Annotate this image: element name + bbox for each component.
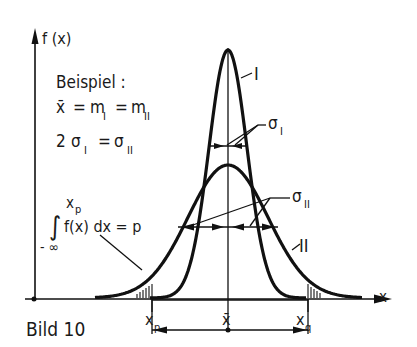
sigma-ii-label: σ II — [292, 186, 310, 211]
svg-text:II: II — [127, 144, 133, 157]
svg-text:x: x — [145, 310, 154, 329]
svg-text:σ: σ — [71, 131, 81, 151]
svg-text:f(x) dx = p: f(x) dx = p — [64, 217, 141, 236]
svg-text:2: 2 — [56, 131, 66, 151]
origin-dot — [32, 297, 37, 302]
curve-i-label: I — [254, 63, 259, 84]
xbar-label: x̄ — [222, 310, 231, 329]
integral-expression: x p ∫ - ∞ f(x) dx = p — [40, 194, 141, 255]
svg-text:x: x — [66, 194, 74, 212]
integral-sign: ∫ — [49, 211, 61, 241]
svg-text:x: x — [296, 310, 305, 329]
x-axis-label: x — [379, 288, 387, 306]
sigma-i-label: σ I — [268, 113, 283, 138]
svg-text:σ: σ — [114, 131, 124, 151]
example-heading: Beispiel : — [56, 72, 126, 92]
sigma-i-dimension — [210, 125, 266, 149]
svg-text:q: q — [305, 321, 311, 334]
svg-text:II: II — [304, 198, 310, 211]
example-line-1: x̄ = m I = m II — [56, 97, 150, 123]
svg-text:=: = — [73, 97, 86, 117]
integral-leader — [100, 235, 142, 270]
svg-text:p: p — [75, 203, 81, 216]
svg-text:I: I — [280, 125, 283, 138]
figure-caption: Bild 10 — [26, 318, 85, 340]
svg-text:I: I — [103, 110, 106, 123]
svg-text:=: = — [98, 131, 111, 151]
svg-text:- ∞: - ∞ — [40, 239, 59, 255]
curve-ii-label: II — [299, 235, 309, 256]
svg-text:x̄: x̄ — [56, 97, 65, 117]
svg-text:=: = — [115, 97, 128, 117]
curve-i-leader — [241, 73, 252, 78]
y-axis-label: f (x) — [42, 29, 71, 48]
svg-text:II: II — [144, 110, 150, 123]
y-axis-arrow — [32, 28, 39, 44]
normal-distribution-diagram: f (x) x Beispiel : x̄ = m I = m II 2 σ I… — [0, 0, 417, 347]
svg-text:σ: σ — [268, 113, 278, 133]
svg-text:I: I — [84, 144, 87, 157]
svg-text:σ: σ — [292, 186, 302, 206]
example-line-2: 2 σ I = σ II — [56, 131, 133, 157]
svg-text:p: p — [154, 321, 160, 334]
